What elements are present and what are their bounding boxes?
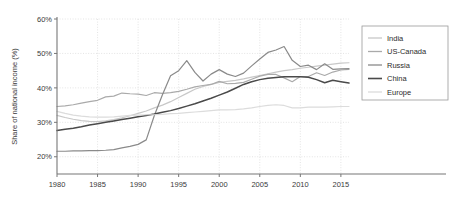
x-tick-label: 2010 bbox=[292, 180, 309, 189]
series-line-india bbox=[57, 63, 349, 122]
x-tick-label: 2000 bbox=[211, 180, 228, 189]
legend-label-china[interactable]: China bbox=[387, 74, 407, 83]
y-axis-title: Share of national income (%) bbox=[10, 48, 19, 145]
series-line-europe bbox=[57, 105, 349, 117]
x-tick-label: 1995 bbox=[170, 180, 187, 189]
legend-label-europe[interactable]: Europe bbox=[387, 88, 411, 97]
y-tick-label: 30% bbox=[37, 118, 52, 127]
line-chart: 20%30%40%50%60%1980198519901995200020052… bbox=[0, 0, 452, 206]
x-tick-label: 2015 bbox=[333, 180, 350, 189]
y-tick-label: 20% bbox=[37, 152, 52, 161]
legend-label-us-canada[interactable]: US-Canada bbox=[387, 47, 427, 56]
x-tick-label: 1990 bbox=[130, 180, 147, 189]
legend-label-india[interactable]: India bbox=[387, 34, 404, 43]
x-tick-label: 2005 bbox=[251, 180, 268, 189]
chart-container: 20%30%40%50%60%1980198519901995200020052… bbox=[0, 0, 452, 206]
legend-label-russia[interactable]: Russia bbox=[387, 61, 411, 70]
y-tick-label: 50% bbox=[37, 49, 52, 58]
y-tick-label: 60% bbox=[37, 15, 52, 24]
x-tick-label: 1985 bbox=[89, 180, 106, 189]
x-tick-label: 1980 bbox=[49, 180, 66, 189]
y-tick-label: 40% bbox=[37, 84, 52, 93]
